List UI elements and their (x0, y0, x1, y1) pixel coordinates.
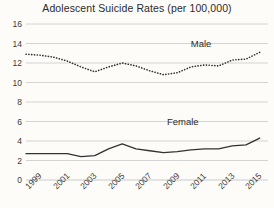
chart-plot-area (0, 0, 274, 208)
chart-container: Adolescent Suicide Rates (per 100,000) 0… (0, 0, 274, 208)
series-line-male (26, 52, 260, 74)
series-label-male: Male (191, 38, 212, 49)
series-label-female: Female (167, 116, 199, 127)
gridlines (26, 24, 268, 180)
